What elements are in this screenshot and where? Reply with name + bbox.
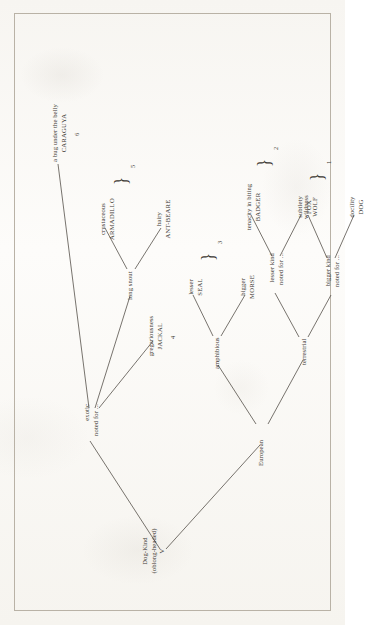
root-label-line2: (oblong-headed) — [149, 505, 158, 597]
leaf-ant-beare-quality: hairy — [155, 193, 164, 245]
leaf-morse-name: MORSE — [247, 267, 256, 307]
branch-long-snout-label: long snout — [126, 271, 133, 300]
group-number-4: 4 — [169, 335, 176, 338]
brace-group-2: } — [253, 158, 273, 166]
group-number-5: 5 — [129, 164, 136, 167]
leaf-armadillo-name: ARMADILLO — [107, 193, 116, 245]
leaf-caraguya: a bug under the belly CARAGUYA — [51, 94, 68, 172]
branch-european: European — [257, 439, 266, 465]
line-exotic-longsnout — [95, 296, 130, 408]
branch-lesser-kind: lesser kind noted for ... — [268, 253, 285, 305]
leaf-dog-quality: docility — [348, 187, 357, 227]
line-exotic-caraguya — [58, 164, 89, 408]
leaf-jackal: gregariousness JACKAL — [147, 309, 164, 363]
leaf-badger-name: BADGER — [253, 175, 262, 239]
leaf-caraguya-quality: a bug under the belly — [51, 94, 60, 172]
branch-european-label: European — [257, 439, 264, 465]
line-root-european — [166, 445, 260, 549]
leaf-armadillo: crustaceous ARMADILLO — [99, 193, 116, 245]
group-number-1: 1 — [325, 160, 332, 163]
tree-canvas: Dog-Kind (oblong-headed) V European exot… — [13, 13, 333, 613]
branch-long-snout: long snout — [126, 271, 135, 300]
leaf-badger: tenacity in biting BADGER — [245, 175, 262, 239]
branch-bigger-kind-line2: noted for ... — [332, 255, 341, 307]
leaf-ant-beare: hairy ANT-BEARE — [155, 193, 172, 245]
brace-group-3: } — [197, 252, 217, 260]
leaf-jackal-quality: gregariousness — [147, 309, 156, 363]
line-exotic-jackal — [99, 341, 153, 408]
leaf-seal-name: SEAL — [195, 267, 204, 307]
leaf-seal-quality: lesser — [187, 267, 196, 307]
leaf-caraguya-name: CARAGUYA — [59, 94, 68, 172]
leaf-ant-beare-name: ANT-BEARE — [163, 193, 172, 245]
brace-group-5: } — [110, 176, 130, 184]
leaf-fox-label: subtlety FOX — [296, 187, 313, 227]
branch-exotic: exotic noted for ... — [83, 404, 100, 450]
leaf-fox-name: FOX — [304, 187, 313, 227]
branch-lesser-kind-line1: lesser kind — [268, 253, 277, 305]
leaf-jackal-name: JACKAL — [155, 309, 164, 363]
root-node: Dog-Kind (oblong-headed) V — [141, 505, 167, 597]
branch-terrestrial: terrestrial — [300, 338, 309, 364]
leaf-armadillo-quality: crustaceous — [99, 193, 108, 245]
branch-bigger-kind-line1: bigger kind — [324, 255, 333, 307]
leaf-dog-name: DOG — [356, 187, 365, 227]
branch-terrestrial-label: terrestrial — [300, 338, 307, 364]
line-european-amphibious — [218, 365, 256, 424]
leaf-dog: docility DOG — [348, 187, 365, 227]
branch-bigger-kind: bigger kind noted for ... — [324, 255, 341, 307]
group-number-3: 3 — [216, 240, 223, 243]
group-number-2: 2 — [272, 146, 279, 149]
branch-exotic-line1: exotic — [83, 404, 92, 450]
branch-lesser-kind-line2: noted for ... — [276, 253, 285, 305]
brace-group-1: } — [306, 172, 326, 180]
leaf-seal: lesser SEAL — [187, 267, 204, 307]
branch-amphibious-label: amphibious — [213, 337, 220, 369]
branch-amphibious: amphibious — [213, 337, 222, 369]
leaf-morse-quality: bigger — [239, 267, 248, 307]
leaf-badger-quality: tenacity in biting — [245, 175, 254, 239]
root-label-line3: V — [158, 505, 167, 597]
group-number-6: 6 — [73, 132, 80, 135]
branch-exotic-line2: noted for ... — [91, 404, 100, 450]
root-label-line1: Dog-Kind — [141, 505, 150, 597]
leaf-fox-quality: subtlety — [296, 187, 305, 227]
line-european-terrestrial — [268, 360, 303, 424]
leaf-morse: bigger MORSE — [239, 267, 256, 307]
